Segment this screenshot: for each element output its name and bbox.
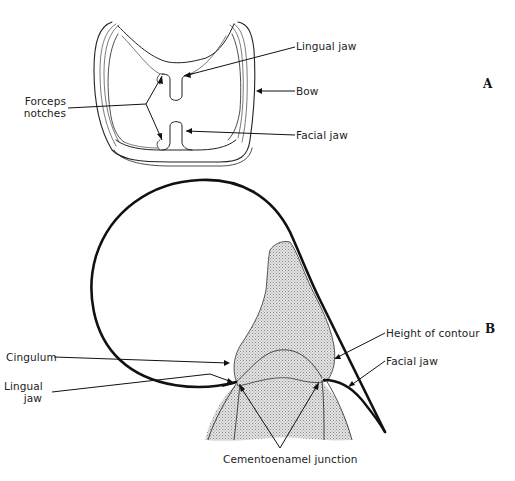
diagram-artwork	[0, 0, 515, 481]
label-forceps-notches: Forceps notches	[18, 95, 66, 119]
panel-letter-a: A	[483, 77, 492, 91]
label-lingual-line2: jaw	[4, 392, 42, 404]
label-facial-jaw-a: Facial jaw	[296, 129, 348, 141]
clamp-illustration	[94, 22, 255, 166]
label-facial-jaw-b: Facial jaw	[386, 355, 438, 367]
leader-lingual-jaw-b	[52, 374, 210, 392]
label-cingulum: Cingulum	[6, 351, 57, 363]
label-cementoenamel-junction: Cementoenamel junction	[223, 453, 357, 465]
leader-cingulum	[54, 357, 228, 363]
leader-lingual-jaw	[184, 47, 295, 76]
label-forceps-line1: Forceps	[18, 95, 66, 107]
figure-canvas: Lingual jaw Bow Facial jaw Forceps notch…	[0, 0, 515, 481]
label-lingual-line1: Lingual	[4, 380, 42, 392]
panel-letter-b: B	[485, 322, 495, 336]
label-lingual-jaw-a: Lingual jaw	[296, 40, 356, 52]
label-forceps-line2: notches	[18, 107, 66, 119]
label-bow: Bow	[296, 85, 319, 97]
tooth-crown	[234, 241, 335, 386]
clamp-facial-jaw	[116, 140, 236, 150]
leader-facial-jaw	[186, 131, 295, 135]
clamp-lingual-jaw	[118, 24, 234, 63]
label-height-of-contour: Height of contour	[386, 327, 480, 339]
label-lingual-jaw-b: Lingual jaw	[4, 380, 42, 404]
tooth-root-region	[205, 378, 352, 441]
